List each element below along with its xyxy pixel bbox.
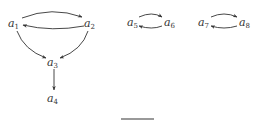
edge-a7-a8 — [211, 14, 237, 17]
node-a7: a7 — [198, 16, 209, 30]
node-a8: a8 — [239, 16, 250, 30]
edge-a2-a3 — [60, 31, 88, 58]
edge-a5-a6 — [139, 14, 162, 17]
edge-a1-a3 — [17, 31, 46, 58]
edge-a2-a1 — [23, 25, 84, 29]
edge-a1-a2 — [22, 12, 82, 18]
node-a6: a6 — [164, 16, 176, 30]
node-a4: a4 — [47, 92, 59, 106]
edge-a6-a5 — [139, 26, 162, 28]
node-a3: a3 — [47, 56, 58, 70]
edge-a8-a7 — [211, 26, 237, 28]
caption-cropped — [121, 118, 154, 120]
node-a1: a1 — [8, 17, 19, 31]
node-a2: a2 — [84, 17, 95, 31]
graph-diagram: a1 a2 a3 a4 a5 a6 a7 a8 — [0, 0, 256, 120]
node-a5: a5 — [127, 16, 138, 30]
